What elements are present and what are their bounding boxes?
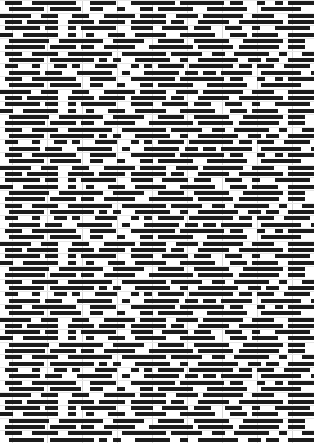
weave-float	[68, 254, 76, 258]
weave-float	[135, 210, 170, 214]
weave-float	[162, 102, 188, 106]
weave-float	[194, 39, 229, 43]
weave-float	[90, 305, 116, 309]
weave-float	[5, 431, 22, 435]
weave-float	[257, 1, 265, 5]
weave-float	[5, 64, 18, 68]
weave-float	[261, 159, 301, 163]
weave-float	[135, 362, 170, 366]
weave-float	[288, 20, 314, 24]
weave-float	[194, 102, 211, 106]
weave-float	[302, 280, 314, 284]
weave-float	[288, 229, 314, 233]
weave-float	[180, 134, 188, 138]
weave-float	[212, 52, 225, 56]
weave-float	[239, 140, 252, 144]
weave-float	[9, 311, 44, 315]
weave-float	[288, 242, 314, 246]
weave-float	[212, 204, 225, 208]
weave-float	[158, 115, 184, 119]
weave-float	[194, 191, 229, 195]
weave-float	[72, 140, 80, 144]
weave-float	[104, 121, 135, 125]
weave-float	[9, 419, 49, 423]
weave-float	[257, 229, 265, 233]
weave-float	[50, 121, 76, 125]
weave-float	[288, 267, 305, 271]
weave-float	[198, 96, 229, 100]
weave-float	[90, 1, 116, 5]
weave-float	[122, 204, 166, 208]
weave-float	[257, 64, 274, 68]
weave-float	[104, 318, 135, 322]
weave-float	[9, 39, 49, 43]
weave-float	[5, 324, 22, 328]
weave-float	[149, 349, 193, 353]
weave-float	[9, 374, 40, 378]
weave-float	[59, 191, 103, 195]
weave-float	[266, 134, 279, 138]
weave-float	[9, 362, 44, 366]
weave-float	[113, 343, 144, 347]
weave-float	[239, 20, 283, 24]
weave-float	[180, 58, 188, 62]
weave-float	[302, 204, 314, 208]
weave-float	[9, 286, 44, 290]
weave-float	[203, 223, 216, 227]
weave-float	[171, 355, 202, 359]
weave-float	[248, 438, 261, 442]
weave-float	[203, 374, 216, 378]
weave-float	[104, 273, 135, 277]
weave-float	[86, 412, 94, 416]
weave-float	[131, 292, 139, 296]
weave-float	[140, 311, 153, 315]
weave-float	[288, 1, 314, 5]
weave-float	[275, 330, 310, 334]
weave-float	[252, 185, 278, 189]
weave-float	[207, 83, 247, 87]
weave-float	[131, 324, 166, 328]
weave-float	[86, 185, 94, 189]
weave-float	[77, 147, 112, 151]
weave-float	[311, 374, 314, 378]
weave-float	[81, 406, 116, 410]
weave-float	[279, 355, 287, 359]
weave-float	[252, 33, 278, 37]
weave-float	[117, 311, 125, 315]
weave-float	[41, 166, 58, 170]
weave-float	[275, 77, 283, 81]
weave-float	[234, 204, 269, 208]
weave-float	[5, 204, 22, 208]
weave-float	[198, 425, 233, 429]
weave-float	[234, 52, 269, 56]
weave-float	[90, 7, 103, 11]
weave-float	[45, 71, 62, 75]
weave-float	[288, 109, 314, 113]
weave-float	[221, 299, 252, 303]
weave-float	[72, 166, 89, 170]
weave-float	[198, 400, 229, 404]
weave-float	[90, 235, 103, 239]
grid-line	[117, 0, 118, 443]
weave-float	[77, 374, 112, 378]
weave-float	[113, 191, 144, 195]
weave-float	[81, 425, 94, 429]
weave-float	[212, 431, 225, 435]
weave-float	[261, 374, 301, 378]
weave-float	[203, 393, 243, 397]
weave-float	[194, 254, 211, 258]
weave-float	[131, 254, 153, 258]
weave-float	[252, 336, 278, 340]
weave-float	[162, 406, 188, 410]
weave-float	[45, 147, 62, 151]
weave-float	[171, 172, 184, 176]
weave-float	[239, 248, 283, 252]
weave-float	[9, 387, 44, 391]
weave-float	[185, 223, 198, 227]
weave-float	[257, 292, 274, 296]
weave-float	[230, 381, 243, 385]
weave-float	[5, 273, 45, 277]
weave-float	[104, 90, 135, 94]
weave-float	[50, 349, 76, 353]
weave-float	[135, 109, 166, 113]
